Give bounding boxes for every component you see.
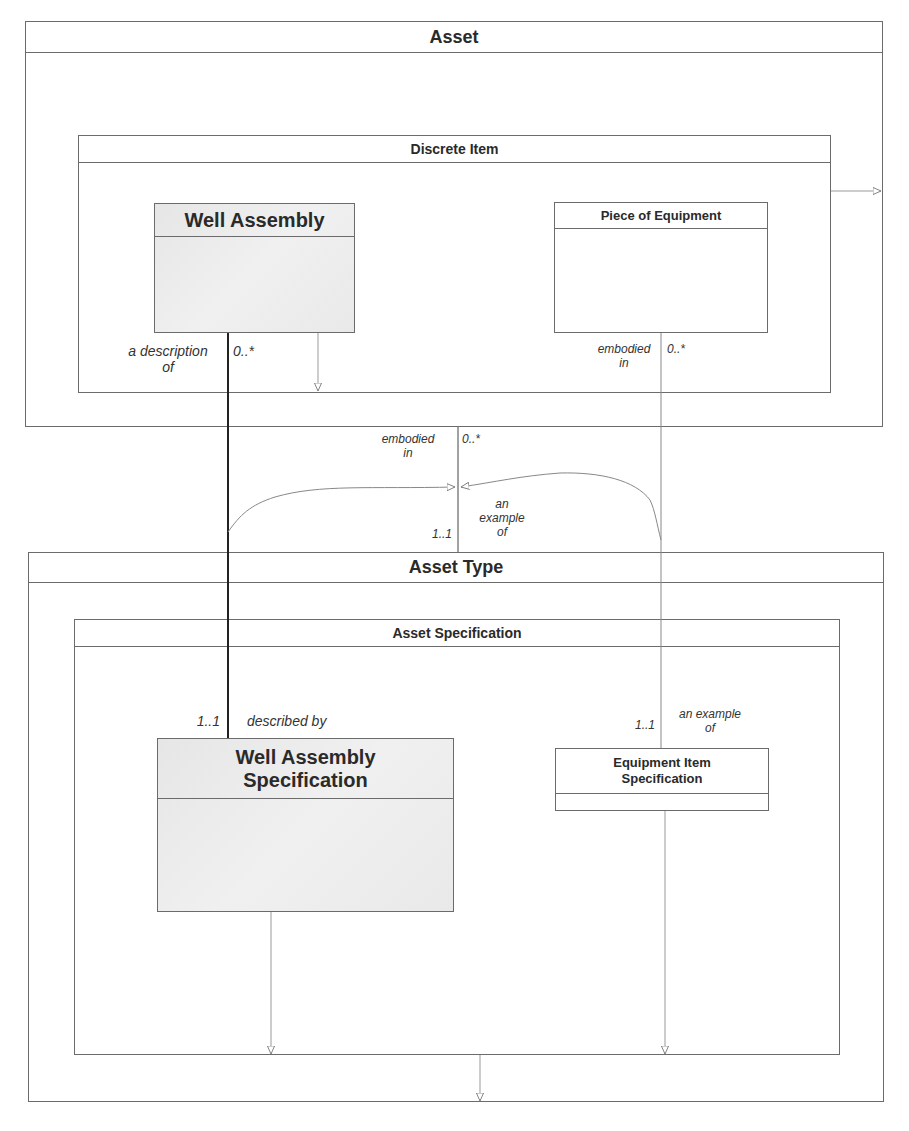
- well-assembly-specification-title: Well Assembly Specification: [158, 739, 453, 799]
- asset-top-multiplicity: 0..*: [462, 432, 480, 446]
- asset-type-title-text: Asset Type: [409, 557, 504, 578]
- asset-type-title: Asset Type: [29, 553, 883, 583]
- role-line: an example: [668, 707, 752, 721]
- equipment-bottom-role: an example of: [668, 707, 752, 735]
- well-assembly-bottom-role: described by: [247, 713, 326, 729]
- well-assembly-class[interactable]: Well Assembly: [154, 203, 355, 333]
- role-line: in: [364, 446, 452, 460]
- well-assembly-specification-title-line1: Well Assembly: [235, 746, 375, 769]
- piece-of-equipment-title: Piece of Equipment: [555, 203, 767, 229]
- asset-top-role: embodied in: [364, 432, 452, 460]
- role-line: embodied: [592, 342, 656, 356]
- role-line: a description: [118, 343, 218, 359]
- well-assembly-bottom-multiplicity: 1..1: [185, 713, 220, 729]
- well-assembly-curve[interactable]: [228, 487, 455, 532]
- role-line: of: [470, 525, 534, 539]
- discrete-item-title: Discrete Item: [79, 136, 830, 163]
- role-line: embodied: [364, 432, 452, 446]
- asset-specification-title: Asset Specification: [75, 620, 839, 647]
- role-line: of: [118, 359, 218, 375]
- well-assembly-title-text: Well Assembly: [184, 209, 324, 232]
- equipment-item-specification-class[interactable]: Equipment Item Specification: [555, 748, 769, 811]
- asset-title-text: Asset: [429, 27, 478, 48]
- equipment-item-specification-title-line1: Equipment Item: [613, 755, 711, 771]
- well-assembly-title: Well Assembly: [155, 204, 354, 237]
- asset-title: Asset: [26, 22, 882, 53]
- equipment-item-specification-title: Equipment Item Specification: [556, 749, 768, 794]
- well-assembly-top-multiplicity: 0..*: [233, 343, 254, 359]
- well-assembly-specification-class[interactable]: Well Assembly Specification: [157, 738, 454, 912]
- role-line: an: [470, 497, 534, 511]
- role-line: in: [592, 356, 656, 370]
- role-line: of: [668, 721, 752, 735]
- piece-of-equipment-title-text: Piece of Equipment: [601, 208, 722, 223]
- equipment-top-multiplicity: 0..*: [667, 342, 685, 356]
- well-assembly-top-role: a description of: [118, 343, 218, 375]
- well-assembly-specification-title-line2: Specification: [243, 769, 367, 792]
- equipment-bottom-multiplicity: 1..1: [615, 718, 655, 732]
- piece-of-equipment-class[interactable]: Piece of Equipment: [554, 202, 768, 333]
- asset-specification-title-text: Asset Specification: [392, 625, 521, 641]
- equipment-top-role: embodied in: [592, 342, 656, 370]
- equipment-item-specification-title-line2: Specification: [622, 771, 703, 787]
- asset-bottom-role: an example of: [470, 497, 534, 539]
- discrete-item-title-text: Discrete Item: [411, 141, 499, 157]
- role-line: example: [470, 511, 534, 525]
- asset-bottom-multiplicity: 1..1: [410, 527, 452, 541]
